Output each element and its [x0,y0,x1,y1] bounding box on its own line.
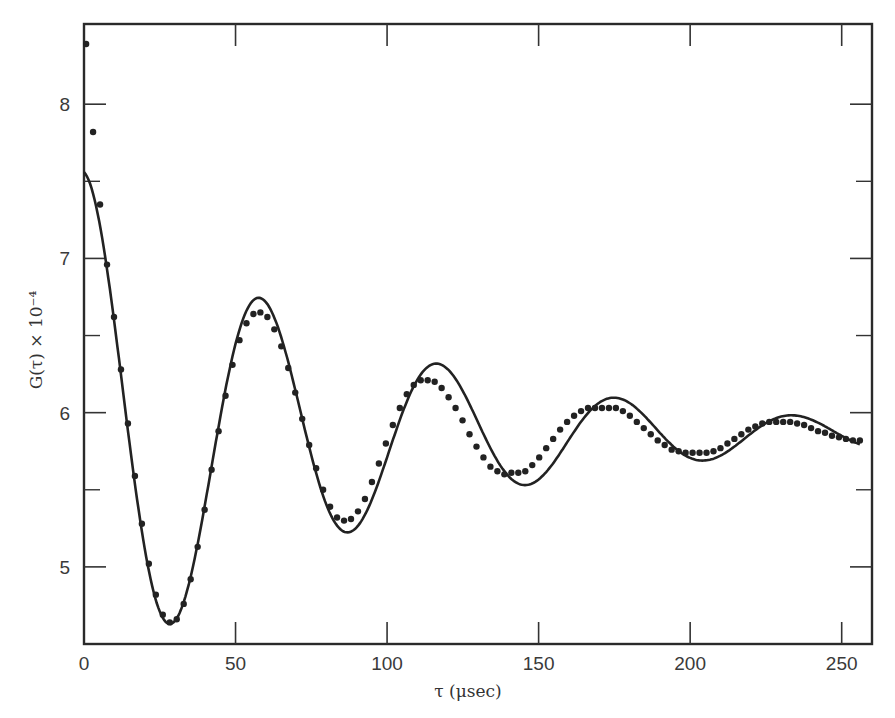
data-point [334,514,340,520]
data-point [752,423,758,429]
x-tick-label: 0 [79,653,90,674]
chart: 0501001502002505678 τ (μsec) G(τ) × 10⁻⁴ [0,0,895,718]
data-point [473,443,479,449]
axis-ticks [84,24,872,644]
data-point [515,470,521,476]
data-point [857,437,863,443]
data-point [160,611,166,617]
data-point [648,431,654,437]
data-point [759,420,765,426]
data-point [236,337,242,343]
data-point [431,379,437,385]
data-point [689,450,695,456]
data-point [459,417,465,423]
data-point [201,507,207,513]
data-point [390,422,396,428]
data-point [418,377,424,383]
data-point [585,405,591,411]
data-point [822,430,828,436]
data-point [348,516,354,522]
data-point [578,408,584,414]
data-point [306,442,312,448]
data-point [215,428,221,434]
data-point [543,445,549,451]
data-point [264,314,270,320]
data-point [661,442,667,448]
x-tick-label: 250 [826,653,858,674]
data-point [292,389,298,395]
data-point [494,468,500,474]
data-point [557,426,563,432]
data-point [118,366,124,372]
data-point [536,454,542,460]
data-point [278,343,284,349]
data-point [487,463,493,469]
data-point [341,517,347,523]
data-point [571,413,577,419]
plot-frame [84,24,872,644]
data-point [243,320,249,326]
data-point [411,382,417,388]
y-tick-label: 8 [59,94,70,115]
data-point [634,419,640,425]
x-tick-label: 100 [371,653,403,674]
data-point [445,394,451,400]
data-point [132,473,138,479]
data-point [829,433,835,439]
y-tick-label: 7 [59,248,70,269]
data-point [801,422,807,428]
data-point [745,426,751,432]
data-point [836,434,842,440]
data-point [376,460,382,466]
data-point [466,431,472,437]
data-point [153,591,159,597]
data-point [320,487,326,493]
data-point [843,436,849,442]
data-point [815,428,821,434]
data-point [299,416,305,422]
y-tick-label: 6 [59,403,70,424]
data-point [808,425,814,431]
data-point [174,616,180,622]
data-point [522,468,528,474]
x-tick-label: 50 [225,653,246,674]
data-point [773,419,779,425]
data-point [641,425,647,431]
data-point [710,448,716,454]
data-point [111,314,117,320]
data-point [550,436,556,442]
data-point [655,437,661,443]
data-point [766,419,772,425]
y-tick-label: 5 [59,557,70,578]
data-point [696,450,702,456]
data-point [355,508,361,514]
data-point [508,470,514,476]
data-point [724,440,730,446]
data-point [703,450,709,456]
data-point [313,465,319,471]
data-point [438,385,444,391]
data-point [222,392,228,398]
data-point [194,544,200,550]
data-point [271,326,277,332]
data-point [285,365,291,371]
data-point [250,311,256,317]
data-point [501,471,507,477]
data-point [452,405,458,411]
data-point [167,619,173,625]
data-point [369,479,375,485]
data-point [529,462,535,468]
data-point [383,440,389,446]
data-point [187,576,193,582]
outlier-point [90,129,96,135]
data-point [668,446,674,452]
outlier-point [83,41,89,47]
data-point [564,419,570,425]
data-point [613,405,619,411]
data-point [780,419,786,425]
data-point [675,448,681,454]
data-point [620,408,626,414]
data-point [125,420,131,426]
data-point [787,419,793,425]
data-point [794,420,800,426]
